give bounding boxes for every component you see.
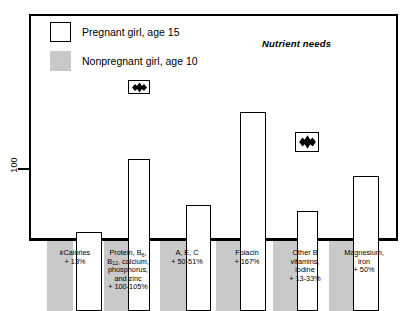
- chart-root: 100 Pregnant girl, age 15 Nonpregnant gi…: [0, 0, 415, 311]
- category-pct: + 50%: [328, 266, 400, 275]
- legend: Pregnant girl, age 15 Nonpregnant girl, …: [50, 22, 198, 80]
- bar-pregnant-folacin: [240, 112, 266, 311]
- legend-swatch-pregnant-icon: [50, 22, 71, 42]
- category-label-folacin: Folacin + 167%: [213, 249, 281, 266]
- category-label-aec: A, E, C + 50-51%: [152, 249, 222, 266]
- scale-break-marker-otherb-icon: [295, 132, 319, 152]
- y-axis-tick-100: [18, 168, 31, 170]
- category-pct: + 13-33%: [272, 275, 338, 284]
- category-pct: + 50-51%: [152, 258, 222, 267]
- y-axis-label-100: 100: [9, 148, 19, 182]
- scale-break-marker-protein-icon: [128, 80, 150, 94]
- chart-annotation: Nutrient needs: [262, 38, 331, 49]
- legend-label-pregnant: Pregnant girl, age 15: [82, 26, 179, 38]
- category-pct: + 100-105%: [92, 283, 164, 292]
- legend-label-nonpregnant: Nonpregnant girl, age 10: [82, 55, 198, 67]
- legend-item-nonpregnant: Nonpregnant girl, age 10: [50, 51, 198, 71]
- category-label-magnesium: Magnesium, iron + 50%: [328, 249, 400, 275]
- category-pct: + 167%: [213, 258, 281, 267]
- bar-pregnant-magnesium: [353, 176, 379, 311]
- legend-item-pregnant: Pregnant girl, age 15: [50, 22, 198, 42]
- legend-swatch-nonpregnant-icon: [50, 51, 71, 71]
